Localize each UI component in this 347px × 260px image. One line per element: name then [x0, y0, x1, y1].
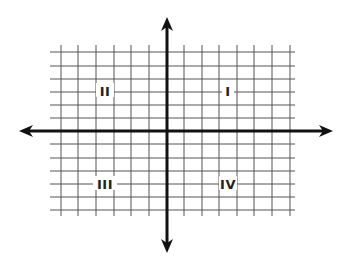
quadrant-label-i: I [225, 84, 230, 99]
quadrant-label-iv: IV [220, 177, 236, 192]
coordinate-plane: IIIIIIIV [0, 0, 347, 260]
quadrant-label-iii: III [97, 177, 113, 192]
quadrant-label-ii: II [100, 84, 111, 99]
